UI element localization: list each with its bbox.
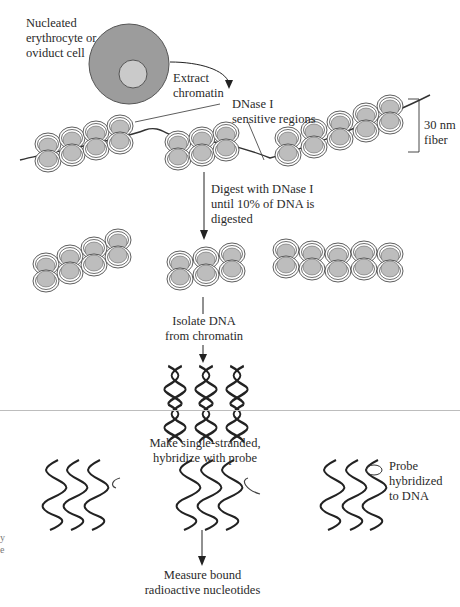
- chromatin-fragments: [33, 229, 403, 292]
- arrowhead-icon: [199, 354, 207, 363]
- chromatin-fiber: [20, 95, 430, 172]
- label-extract: Extractchromatin: [173, 71, 224, 101]
- label-digest: Digest with DNase Iuntil 10% of DNA isdi…: [211, 182, 314, 227]
- label-probe: Probehybridizedto DNA: [389, 459, 442, 504]
- label-cell: Nucleatederythrocyte oroviduct cell: [26, 16, 96, 61]
- arrowhead-icon: [200, 230, 208, 240]
- label-measure: Measure boundradioactive nucleotides: [140, 568, 265, 598]
- dna-double-helices: [164, 366, 247, 443]
- dnase-pointer-line: [135, 104, 220, 122]
- bound-probe: [366, 465, 382, 475]
- edge-text-fragment: e: [0, 544, 4, 555]
- dnase-pointer-line: [248, 122, 264, 160]
- arrowhead-icon: [198, 556, 206, 566]
- diagram-canvas: [0, 0, 460, 607]
- fiber-bracket: [408, 99, 419, 152]
- label-dnase-regions: DNase Isensitive regions: [232, 97, 316, 127]
- label-fiber: 30 nmfiber: [424, 118, 456, 148]
- edge-text-fragment: y: [0, 532, 5, 543]
- page-divider-line: [0, 410, 460, 411]
- arrowhead-icon: [225, 80, 233, 89]
- free-probe: [244, 478, 260, 494]
- label-single-strand: Make single-stranded,hybridize with prob…: [145, 436, 265, 466]
- free-probe: [113, 478, 120, 488]
- label-isolate: Isolate DNAfrom chromatin: [165, 314, 243, 344]
- cell-illustration: [89, 24, 169, 104]
- single-strand-dna-groups: [43, 460, 387, 530]
